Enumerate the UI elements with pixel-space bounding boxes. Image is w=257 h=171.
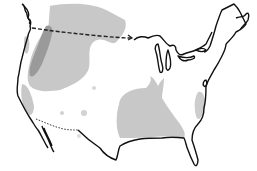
range-areas — [21, 4, 205, 138]
southeast-range — [117, 76, 185, 138]
range-map — [0, 0, 257, 171]
us-map-svg — [0, 0, 257, 171]
